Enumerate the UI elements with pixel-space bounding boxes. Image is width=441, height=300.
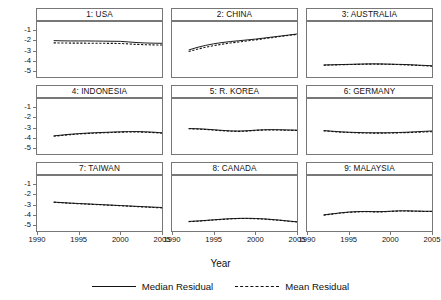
- panel-title-strip: 4: INDONESIA: [36, 85, 163, 98]
- x-tick-label: 1995: [337, 236, 361, 244]
- panel-plot-area: [36, 21, 163, 78]
- legend-key-dashed-line-icon: [235, 282, 279, 290]
- panel-title-strip: 2: CHINA: [171, 8, 298, 21]
- y-tick-mark: [33, 30, 36, 31]
- y-tick-label: -1: [15, 103, 31, 111]
- y-tick-label: -2: [15, 36, 31, 44]
- legend-item-mean: Mean Residual: [235, 281, 349, 292]
- panel-title-strip: 5: R. KOREA: [171, 85, 298, 98]
- x-tick-label: 1995: [67, 236, 91, 244]
- panel-title: 8: CANADA: [212, 164, 256, 173]
- y-tick-mark: [33, 225, 36, 226]
- panel-plot-area: [306, 175, 433, 232]
- legend-item-median: Median Residual: [92, 281, 213, 292]
- y-tick-label: -4: [15, 57, 31, 65]
- panel-grid: 1: USA-1-2-3-4-52: CHINA3: AUSTRALIA4: I…: [0, 8, 441, 246]
- panel-title-strip: 9: MALAYSIA: [306, 162, 433, 175]
- panel-title: 1: USA: [86, 10, 113, 19]
- series-line-mean: [324, 64, 432, 66]
- y-tick-label: -5: [15, 221, 31, 229]
- panel-title-strip: 7: TAIWAN: [36, 162, 163, 175]
- panel-title: 9: MALAYSIA: [344, 164, 395, 173]
- x-tick-label: 1995: [202, 236, 226, 244]
- legend-label-median: Median Residual: [142, 281, 213, 292]
- panel-title-strip: 6: GERMANY: [306, 85, 433, 98]
- series-line-mean: [324, 211, 432, 215]
- chart-panel: 7: TAIWAN: [36, 162, 163, 232]
- y-tick-label: -1: [15, 180, 31, 188]
- chart-panel: 9: MALAYSIA: [306, 162, 433, 232]
- panel-title: 4: INDONESIA: [72, 87, 127, 96]
- y-tick-label: -2: [15, 113, 31, 121]
- y-tick-label: -5: [15, 67, 31, 75]
- x-tick-label: 2000: [378, 236, 402, 244]
- series-line-mean: [54, 132, 162, 136]
- y-tick-label: -5: [15, 144, 31, 152]
- y-tick-label: -3: [15, 47, 31, 55]
- series-line-mean: [189, 129, 297, 132]
- y-tick-mark: [33, 61, 36, 62]
- panel-title: 2: CHINA: [217, 10, 252, 19]
- y-tick-label: -4: [15, 134, 31, 142]
- panel-plot-area: [36, 175, 163, 232]
- chart-panel: 8: CANADA: [171, 162, 298, 232]
- chart-panel: 2: CHINA: [171, 8, 298, 78]
- y-tick-label: -3: [15, 201, 31, 209]
- x-tick-label: 1990: [160, 236, 184, 244]
- x-tick-label: 2000: [243, 236, 267, 244]
- chart-panel: 1: USA: [36, 8, 163, 78]
- panel-title: 5: R. KOREA: [210, 87, 259, 96]
- panel-title-strip: 1: USA: [36, 8, 163, 21]
- x-tick-label: 2000: [108, 236, 132, 244]
- y-tick-label: -1: [15, 26, 31, 34]
- y-tick-mark: [33, 138, 36, 139]
- panel-title-strip: 8: CANADA: [171, 162, 298, 175]
- x-axis-label: Year: [0, 258, 441, 269]
- x-tick-label: 1990: [295, 236, 319, 244]
- panel-title-strip: 3: AUSTRALIA: [306, 8, 433, 21]
- series-line-mean: [324, 131, 432, 133]
- panel-title: 7: TAIWAN: [79, 164, 120, 173]
- y-tick-mark: [33, 51, 36, 52]
- y-tick-mark: [33, 205, 36, 206]
- y-tick-mark: [33, 194, 36, 195]
- series-line-mean: [189, 34, 297, 51]
- chart-panel: 4: INDONESIA: [36, 85, 163, 155]
- y-tick-mark: [33, 40, 36, 41]
- panel-title: 6: GERMANY: [344, 87, 396, 96]
- x-tick-label: 1990: [25, 236, 49, 244]
- y-tick-mark: [33, 215, 36, 216]
- x-tick-label: 2005: [420, 236, 441, 244]
- panel-plot-area: [171, 21, 298, 78]
- trellis-chart-figure: 1: USA-1-2-3-4-52: CHINA3: AUSTRALIA4: I…: [0, 0, 441, 300]
- y-tick-label: -2: [15, 190, 31, 198]
- y-tick-mark: [33, 128, 36, 129]
- series-line-mean: [189, 218, 297, 222]
- panel-plot-area: [171, 175, 298, 232]
- panel-plot-area: [171, 98, 298, 155]
- chart-panel: 6: GERMANY: [306, 85, 433, 155]
- panel-plot-area: [306, 21, 433, 78]
- chart-legend: Median Residual Mean Residual: [0, 278, 441, 294]
- y-tick-mark: [33, 107, 36, 108]
- y-tick-mark: [33, 117, 36, 118]
- y-tick-mark: [33, 148, 36, 149]
- panel-plot-area: [306, 98, 433, 155]
- legend-key-solid-line-icon: [92, 282, 136, 290]
- panel-title: 3: AUSTRALIA: [342, 10, 397, 19]
- y-tick-mark: [33, 71, 36, 72]
- legend-label-mean: Mean Residual: [285, 281, 349, 292]
- chart-panel: 5: R. KOREA: [171, 85, 298, 155]
- y-tick-label: -4: [15, 211, 31, 219]
- y-tick-mark: [33, 184, 36, 185]
- y-tick-label: -3: [15, 124, 31, 132]
- series-line-mean: [54, 202, 162, 208]
- panel-plot-area: [36, 98, 163, 155]
- chart-panel: 3: AUSTRALIA: [306, 8, 433, 78]
